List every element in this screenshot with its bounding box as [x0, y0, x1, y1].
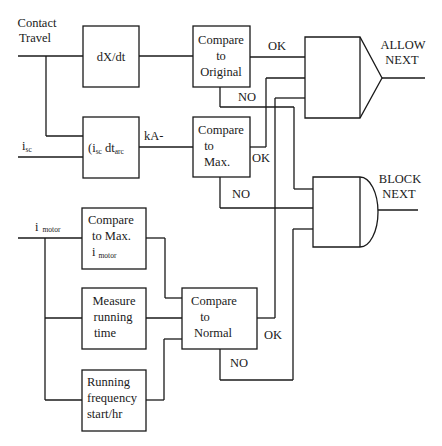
contact-travel-label-2: Travel — [19, 31, 52, 45]
block-dxdt-label: dX/dt — [97, 50, 126, 64]
block-next-label-2: NEXT — [382, 187, 416, 201]
block-next-and-gate — [313, 177, 378, 247]
measure-line3: time — [94, 326, 117, 340]
no-normal-label: NO — [230, 356, 248, 370]
compare-normal-line3: Normal — [194, 326, 233, 340]
ok-max-label: OK — [252, 151, 270, 165]
ok-normal-label: OK — [264, 328, 282, 342]
block-compare-max-imotor: Compare to Max. imotor — [82, 208, 146, 269]
block-compare-original: Compare to Original — [193, 26, 250, 87]
compare-original-line3: Original — [200, 65, 242, 79]
block-compare-normal: Compare to Normal — [182, 288, 257, 349]
compare-normal-line2: to — [200, 310, 210, 324]
block-next-label-1: BLOCK — [379, 172, 421, 186]
block-compare-max: Compare to Max. — [193, 117, 250, 177]
block-arc-integral: (isc dtarc — [83, 117, 139, 178]
no-original-label: NO — [238, 90, 256, 104]
compare-max-imotor-line1: Compare — [88, 213, 134, 227]
block-dxdt: dX/dt — [83, 26, 139, 87]
compare-max-line1: Compare — [198, 123, 244, 137]
compare-max-line3: Max. — [204, 155, 230, 169]
allow-next-label-2: NEXT — [385, 53, 419, 67]
compare-normal-line1: Compare — [191, 294, 237, 308]
output-labels: ALLOW NEXT BLOCK NEXT — [379, 38, 426, 201]
isc-label: isc — [22, 139, 32, 154]
frequency-line1: Running — [87, 375, 131, 389]
contact-travel-label-1: Contact — [18, 16, 57, 30]
ka-label: kA- — [144, 129, 163, 143]
frequency-line2: frequency — [87, 391, 138, 405]
protection-logic-diagram: dX/dt (isc dtarc Compare to Original Com… — [0, 0, 442, 446]
allow-next-label-1: ALLOW — [380, 38, 425, 52]
block-measure-running-time: Measure running time — [82, 288, 146, 349]
no-max-label: NO — [232, 187, 250, 201]
compare-original-line1: Compare — [198, 33, 244, 47]
imotor-label: imotor — [35, 220, 61, 234]
compare-max-line2: to — [204, 139, 214, 153]
allow-next-gate — [305, 37, 382, 118]
compare-max-imotor-line2: to Max. — [92, 229, 131, 243]
measure-line2: running — [94, 310, 134, 324]
block-running-frequency: Running frequency start/hr — [82, 370, 146, 431]
compare-original-line2: to — [216, 49, 226, 63]
frequency-line3: start/hr — [87, 407, 123, 421]
input-labels: Contact Travel isc imotor — [18, 16, 61, 234]
ok-original-label: OK — [268, 39, 286, 53]
measure-line1: Measure — [92, 294, 135, 308]
